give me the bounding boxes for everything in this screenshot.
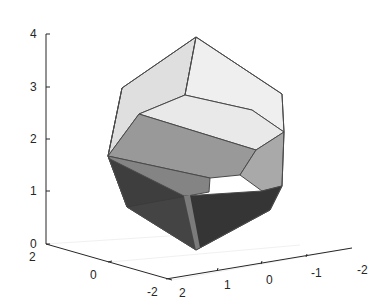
- x-tick-label: -1: [311, 266, 322, 280]
- x-tick-label: 1: [224, 278, 231, 292]
- z-tick-label: 4: [30, 27, 37, 41]
- z-tick-label: 3: [30, 80, 37, 94]
- polyhedron-3d-plot: 4 3 2 1 0 2 0 -2 2 1 0 -1 -2: [0, 0, 392, 307]
- x-tick-label: 2: [179, 286, 186, 300]
- face-bottom-front: [184, 186, 282, 250]
- y-tick-label: 0: [90, 268, 97, 282]
- z-tick-label: 0: [30, 237, 37, 251]
- x-tick-label: 0: [266, 273, 273, 287]
- y-axis: 2 0 -2: [29, 244, 172, 299]
- z-tick-label: 1: [30, 184, 37, 198]
- z-tick-label: 2: [30, 132, 37, 146]
- x-axis: 2 1 0 -1 -2: [166, 248, 368, 300]
- polyhedron: [108, 37, 284, 250]
- y-tick-label: 2: [29, 250, 36, 264]
- x-tick-label: -2: [357, 263, 368, 277]
- z-axis: 4 3 2 1 0: [30, 27, 50, 251]
- y-tick-label: -2: [147, 285, 158, 299]
